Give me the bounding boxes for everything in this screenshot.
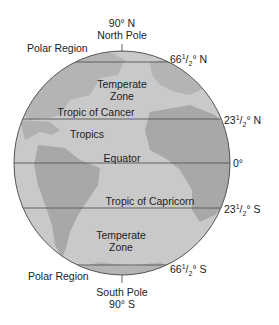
temperate-zone-south-label-2: Zone <box>109 241 133 253</box>
equator-latitude-label: 0° <box>233 157 243 169</box>
temperate-zone-north-label-1: Temperate <box>97 78 147 90</box>
tropic-of-capricorn-label: Tropic of Capricorn <box>106 195 195 207</box>
cancer-latitude-label: 231/2° N <box>224 114 261 126</box>
tropic-of-cancer-label: Tropic of Cancer <box>57 106 134 118</box>
capricorn-latitude-label: 231/2° S <box>224 203 261 215</box>
south-pole-label: South Pole <box>96 286 147 298</box>
north-pole-label: North Pole <box>97 29 147 41</box>
temperate-zone-south-label-1: Temperate <box>96 229 146 241</box>
tropics-label: Tropics <box>70 128 104 140</box>
equator-label: Equator <box>104 152 141 164</box>
south-latitude-label: 90° S <box>109 298 135 310</box>
antarctic-latitude-label: 661/2° S <box>170 263 207 275</box>
polar-region-north-label: Polar Region <box>27 42 88 54</box>
temperate-zone-north-label-2: Zone <box>110 90 134 102</box>
polar-region-south-label: Polar Region <box>28 270 89 282</box>
arctic-latitude-label: 661/2° N <box>170 53 207 65</box>
north-latitude-label: 90° N <box>109 17 135 29</box>
